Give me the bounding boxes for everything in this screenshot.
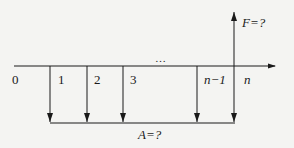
period-label-2: 2 [94, 73, 101, 86]
period-label-n-minus-1: n−1 [204, 73, 226, 86]
origin-label: 0 [12, 73, 19, 86]
cash-flow-diagram: 0 1 2 3 n−1 n … F=? A=? [0, 0, 294, 148]
period-label-n: n [244, 73, 251, 86]
ellipsis-label: … [155, 53, 166, 64]
future-value-label: F=? [242, 16, 265, 29]
period-label-1: 1 [58, 73, 65, 86]
period-label-3: 3 [130, 73, 137, 86]
annuity-label: A=? [138, 128, 161, 141]
